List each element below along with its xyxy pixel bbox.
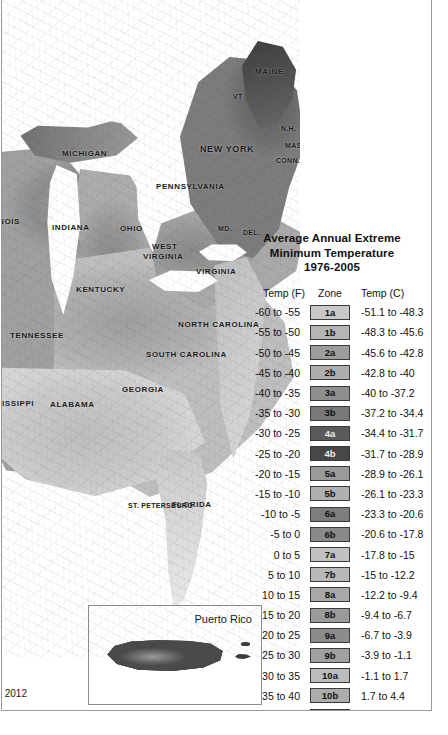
legend-row: -10 to -56a-23.3 to -20.6: [239, 504, 425, 524]
zone-swatch: 3a: [310, 386, 350, 401]
map-state-label: WEST: [152, 242, 178, 251]
zone-swatch: 9a: [310, 628, 350, 643]
legend-row: -5 to 06b-20.6 to -17.8: [239, 524, 425, 544]
legend-temp-f: -60 to -55: [239, 306, 305, 318]
legend-title-line-2: Minimum Temperature: [239, 246, 425, 261]
legend-temp-f: -40 to -35: [239, 387, 305, 399]
zone-swatch: 7b: [310, 567, 350, 582]
zone-swatch: 2a: [310, 345, 350, 360]
zone-swatch: 5b: [310, 486, 350, 501]
map-attribution: oup, ersity, state.edu, 2012: [1, 659, 78, 702]
legend-zone-cell: 3b: [305, 406, 355, 421]
legend-temp-c: -12.2 to -9.4: [355, 589, 425, 601]
vieques-island: [235, 654, 251, 659]
legend-temp-f: -25 to -20: [239, 448, 305, 460]
legend-temp-c: -42.8 to -40: [355, 367, 425, 379]
legend-temp-c: -17.8 to -15: [355, 549, 425, 561]
legend-temp-f: -15 to -10: [239, 488, 305, 500]
map-state-label: MASS.: [285, 142, 300, 149]
map-state-label: SOUTH CAROLINA: [146, 350, 227, 359]
map-frame: MICHIGANNEW YORKPENNSYLVANIAMAINEVTN.H.M…: [1, 0, 432, 711]
legend-row: 0 to 57a-17.8 to -15: [239, 544, 425, 564]
legend-zone-cell: 6b: [305, 527, 355, 542]
legend-temp-c: 1.7 to 4.4: [355, 690, 425, 702]
legend-row: 35 to 4010b1.7 to 4.4: [239, 686, 425, 706]
legend-zone-cell: 7a: [305, 547, 355, 562]
map-state-label: DEL.: [243, 229, 260, 236]
map-state-label: VIRGINIA: [143, 252, 183, 261]
legend-zone-cell: 5a: [305, 466, 355, 481]
map-state-label: NORTH CAROLINA: [178, 320, 259, 329]
zone-swatch: 8b: [310, 608, 350, 623]
legend-row: 5 to 107b-15 to -12.2: [239, 565, 425, 585]
legend-row: -35 to -303b-37.2 to -34.4: [239, 403, 425, 423]
legend-zone-cell: 8b: [305, 608, 355, 623]
legend-zone-cell: 10a: [305, 668, 355, 683]
legend-temp-f: -20 to -15: [239, 468, 305, 480]
legend-temp-c: -31.7 to -28.9: [355, 448, 425, 460]
zone-swatch: 2b: [310, 365, 350, 380]
zone-swatch: 7a: [310, 547, 350, 562]
legend-row: 30 to 3510a-1.1 to 1.7: [239, 666, 425, 686]
zone-swatch: 5a: [310, 466, 350, 481]
zone-swatch: 4a: [310, 426, 350, 441]
legend-title: Average Annual Extreme Minimum Temperatu…: [239, 231, 425, 275]
legend-row: -60 to -551a-51.1 to -48.3: [239, 302, 425, 322]
legend-temp-c: -3.9 to -1.1: [355, 649, 425, 661]
map-state-label: GEORGIA: [122, 385, 164, 394]
puerto-rico-inset: Puerto Rico: [88, 605, 262, 705]
legend-header-zone: Zone: [305, 287, 355, 299]
zone-swatch: 10a: [310, 668, 350, 683]
legend-header-temp-c: Temp (C): [355, 287, 425, 299]
attribution-line-2: ersity,: [1, 673, 78, 687]
legend-zone-cell: 7b: [305, 567, 355, 582]
legend-temp-f: -45 to -40: [239, 367, 305, 379]
legend-temp-f: -35 to -30: [239, 407, 305, 419]
zone-swatch: 9b: [310, 648, 350, 663]
map-state-label: SISSIPPI: [1, 399, 34, 408]
legend-temp-f: 5 to 10: [239, 569, 305, 581]
legend-row: -50 to -452a-45.6 to -42.8: [239, 343, 425, 363]
legend-temp-c: -6.7 to -3.9: [355, 629, 425, 641]
legend-row: -55 to -501b-48.3 to -45.6: [239, 322, 425, 342]
map-state-label: KENTUCKY: [76, 285, 125, 294]
legend-zone-cell: 1a: [305, 305, 355, 320]
zone-swatch: 1a: [310, 305, 350, 320]
legend-header-temp-f: Temp (F): [239, 287, 305, 299]
zone-swatch: 4b: [310, 446, 350, 461]
legend-zone-cell: 1b: [305, 325, 355, 340]
legend-zone-cell: 6a: [305, 507, 355, 522]
attribution-line-3: state.edu, 2012: [1, 687, 78, 701]
legend-temp-c: -1.1 to 1.7: [355, 670, 425, 682]
legend-header-row: Temp (F) Zone Temp (C): [239, 287, 425, 299]
legend-temp-f: 40 to 45: [239, 710, 305, 711]
legend-temp-c: -48.3 to -45.6: [355, 326, 425, 338]
legend-zone-cell: 9a: [305, 628, 355, 643]
legend-title-line-3: 1976-2005: [239, 260, 425, 275]
legend-temp-f: -10 to -5: [239, 508, 305, 520]
legend-temp-c: -15 to -12.2: [355, 569, 425, 581]
legend-zone-cell: 8a: [305, 587, 355, 602]
legend-temp-f: 0 to 5: [239, 549, 305, 561]
map-state-label: PENNSYLVANIA: [156, 182, 225, 191]
legend-zone-cell: 5b: [305, 486, 355, 501]
map-state-label: ALABAMA: [50, 400, 95, 409]
legend-temp-f: 10 to 15: [239, 589, 305, 601]
legend-temp-c: -34.4 to -31.7: [355, 427, 425, 439]
legend-zone-cell: 3a: [305, 386, 355, 401]
legend-row: -25 to -204b-31.7 to -28.9: [239, 443, 425, 463]
legend-temp-f: -50 to -45: [239, 347, 305, 359]
legend-zone-cell: 4b: [305, 446, 355, 461]
map-state-label: MAINE: [255, 67, 284, 76]
legend-zone-cell: 10b: [305, 688, 355, 703]
legend-row: 20 to 259a-6.7 to -3.9: [239, 625, 425, 645]
map-state-label: ST. PETERSBURG: [128, 502, 193, 509]
zone-swatch: 11a: [310, 709, 350, 712]
legend-temp-c: -28.9 to -26.1: [355, 468, 425, 480]
legend-temp-c: 4.4 to 7.2: [355, 710, 425, 711]
map-state-label: NEW YORK: [200, 144, 254, 154]
map-state-label: TENNESSEE: [10, 331, 64, 340]
map-state-label: NOIS: [1, 217, 20, 226]
zone-swatch: 6a: [310, 507, 350, 522]
zone-swatch: 6b: [310, 527, 350, 542]
